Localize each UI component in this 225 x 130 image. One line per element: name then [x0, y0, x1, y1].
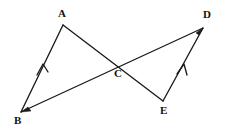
vertex-label-c: C — [114, 68, 122, 79]
geometry-figure: A B C D E — [0, 0, 225, 130]
segment-ba — [21, 25, 63, 112]
parallel-mark-ba-icon — [37, 64, 48, 75]
segment-ae — [63, 25, 163, 101]
segment-bd — [21, 28, 203, 112]
vertex-label-e: E — [160, 105, 167, 116]
vertex-label-a: A — [58, 8, 66, 19]
vertex-label-d: D — [203, 9, 211, 20]
figure-canvas — [0, 0, 225, 130]
vertex-label-b: B — [14, 115, 21, 126]
